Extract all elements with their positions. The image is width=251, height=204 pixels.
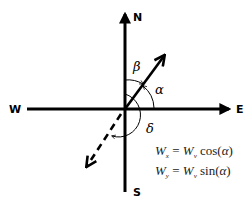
equation-wx: Wx = Wv cos(α): [155, 143, 233, 160]
equation-wy: Wy = Wv sin(α): [155, 163, 231, 180]
south-label: S: [133, 186, 141, 199]
delta-label: δ: [146, 121, 154, 136]
beta-label: β: [132, 59, 141, 74]
alpha-arc: [143, 86, 154, 108]
compass-wind-diagram: N S E W β α δ Wx = Wv cos(α) Wy = Wv sin…: [0, 0, 251, 204]
diagram-canvas: N S E W β α δ Wx = Wv cos(α) Wy = Wv sin…: [0, 0, 251, 204]
opposite-vector-dashed: [87, 114, 121, 166]
beta-arc: [125, 80, 143, 84]
east-label: E: [236, 103, 244, 116]
north-label: N: [133, 11, 142, 24]
west-label: W: [9, 103, 21, 116]
alpha-label: α: [155, 82, 164, 97]
